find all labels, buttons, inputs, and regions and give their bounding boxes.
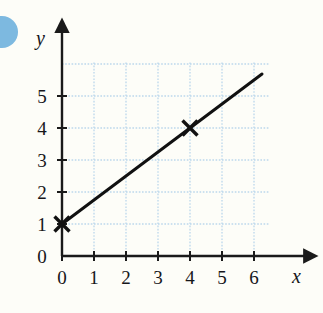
- y-tick-label-0: 0: [32, 247, 52, 266]
- x-tick-label-5: 5: [212, 268, 232, 287]
- vertical-gridlines: [94, 62, 254, 256]
- x-tick-label-4: 4: [180, 268, 200, 287]
- x-tick-label-6: 6: [244, 268, 264, 287]
- y-axis-label: y: [36, 28, 45, 48]
- y-tick-label-5: 5: [32, 87, 52, 106]
- x-tick-label-1: 1: [84, 268, 104, 287]
- x-tick-label-3: 3: [148, 268, 168, 287]
- y-tick-label-3: 3: [32, 151, 52, 170]
- axis-ticks: [57, 96, 254, 261]
- y-tick-label-1: 1: [32, 215, 52, 234]
- x-tick-label-2: 2: [116, 268, 136, 287]
- x-tick-label-0: 0: [52, 268, 72, 287]
- graph-screenshot: 0 1 2 3 4 5 6 0 1 2 3 4 5 y x: [0, 0, 323, 313]
- y-tick-label-4: 4: [32, 119, 52, 138]
- y-tick-label-2: 2: [32, 183, 52, 202]
- x-axis-label: x: [292, 266, 301, 286]
